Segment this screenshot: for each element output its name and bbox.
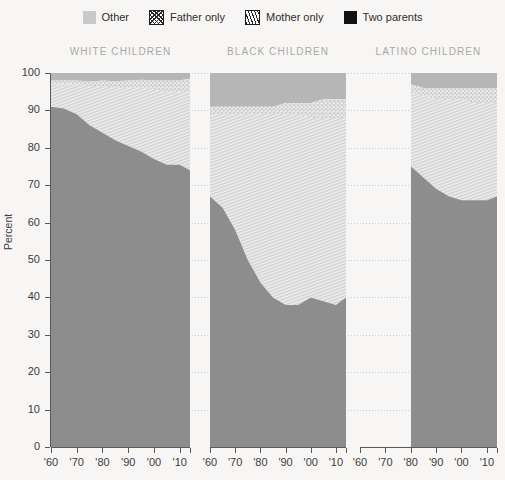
x-tick-mark bbox=[210, 448, 211, 453]
x-tick-label: '80 bbox=[399, 456, 423, 468]
x-tick-label: '90 bbox=[424, 456, 448, 468]
x-tick-mark bbox=[286, 448, 287, 453]
y-tick-label: 30 bbox=[14, 328, 40, 340]
x-tick-mark bbox=[487, 448, 488, 453]
x-tick-mark bbox=[497, 448, 498, 453]
chart-area: Percent 0102030405060708090100 '60'70'80… bbox=[0, 34, 505, 480]
y-tick-mark bbox=[45, 335, 50, 336]
x-tick-mark bbox=[180, 448, 181, 453]
y-tick-label: 40 bbox=[14, 290, 40, 302]
x-tick-label: '70 bbox=[65, 456, 89, 468]
x-tick-mark bbox=[235, 448, 236, 453]
x-tick-mark bbox=[346, 448, 347, 453]
x-tick-label: '70 bbox=[223, 456, 247, 468]
x-tick-label: '00 bbox=[449, 456, 473, 468]
x-tick-mark bbox=[260, 448, 261, 453]
y-tick-mark bbox=[45, 110, 50, 111]
y-tick-label: 90 bbox=[14, 103, 40, 115]
legend-label-mother-only: Mother only bbox=[266, 11, 323, 23]
y-tick-label: 0 bbox=[14, 440, 40, 452]
y-tick-label: 20 bbox=[14, 365, 40, 377]
legend-item-other: Other bbox=[83, 11, 130, 24]
panel-plot-black-children bbox=[210, 73, 346, 447]
x-tick-label: '60 bbox=[348, 456, 372, 468]
solid-black-swatch-icon bbox=[344, 11, 357, 24]
x-tick-label: '60 bbox=[198, 456, 222, 468]
y-tick-label: 10 bbox=[14, 403, 40, 415]
x-tick-mark bbox=[190, 448, 191, 453]
x-tick-label: '70 bbox=[373, 456, 397, 468]
y-tick-label: 60 bbox=[14, 216, 40, 228]
y-tick-mark bbox=[45, 260, 50, 261]
x-tick-mark bbox=[336, 448, 337, 453]
legend-label-father-only: Father only bbox=[170, 11, 225, 23]
x-tick-mark bbox=[311, 448, 312, 453]
legend-item-father-only: Father only bbox=[149, 10, 225, 25]
x-tick-mark bbox=[411, 448, 412, 453]
panel-title-latino-children: LATINO CHILDREN bbox=[360, 46, 497, 57]
y-tick-mark bbox=[45, 148, 50, 149]
y-tick-mark bbox=[45, 447, 50, 448]
legend-item-mother-only: Mother only bbox=[245, 10, 323, 25]
x-tick-label: '80 bbox=[90, 456, 114, 468]
x-tick-label: '90 bbox=[274, 456, 298, 468]
y-tick-mark bbox=[45, 73, 50, 74]
panel-title-black-children: BLACK CHILDREN bbox=[210, 46, 346, 57]
y-tick-label: 70 bbox=[14, 178, 40, 190]
y-tick-mark bbox=[45, 185, 50, 186]
y-tick-mark bbox=[45, 372, 50, 373]
panel-plot-latino-children bbox=[411, 73, 497, 447]
y-tick-mark bbox=[45, 223, 50, 224]
x-tick-label: '80 bbox=[248, 456, 272, 468]
legend-label-two-parents: Two parents bbox=[363, 11, 423, 23]
y-tick-label: 100 bbox=[14, 66, 40, 78]
y-axis-label: Percent bbox=[2, 214, 14, 250]
x-tick-label: '90 bbox=[116, 456, 140, 468]
solid-gray-swatch-icon bbox=[83, 11, 96, 24]
crosshatch-swatch-icon bbox=[149, 10, 164, 25]
x-tick-mark bbox=[51, 448, 52, 453]
legend-label-other: Other bbox=[102, 11, 130, 23]
panel-title-white-children: WHITE CHILDREN bbox=[51, 46, 190, 57]
legend-item-two-parents: Two parents bbox=[344, 11, 423, 24]
x-tick-mark bbox=[154, 448, 155, 453]
y-tick-mark bbox=[45, 410, 50, 411]
x-tick-mark bbox=[385, 448, 386, 453]
x-tick-label: '00 bbox=[299, 456, 323, 468]
x-tick-label: '10 bbox=[324, 456, 348, 468]
chart-legend: Other Father only Mother only Two parent… bbox=[0, 0, 505, 34]
x-axis-line bbox=[360, 447, 497, 448]
x-tick-mark bbox=[102, 448, 103, 453]
x-axis-line bbox=[51, 447, 190, 448]
diagonal-hatch-swatch-icon bbox=[245, 10, 260, 25]
x-tick-label: '00 bbox=[142, 456, 166, 468]
panel-plot-white-children bbox=[51, 73, 190, 447]
x-tick-mark bbox=[128, 448, 129, 453]
x-tick-label: '10 bbox=[168, 456, 192, 468]
x-axis-line bbox=[210, 447, 346, 448]
x-tick-mark bbox=[360, 448, 361, 453]
x-tick-label: '60 bbox=[39, 456, 63, 468]
x-tick-mark bbox=[461, 448, 462, 453]
y-tick-mark bbox=[45, 297, 50, 298]
y-tick-label: 80 bbox=[14, 141, 40, 153]
y-tick-label: 50 bbox=[14, 253, 40, 265]
x-tick-mark bbox=[77, 448, 78, 453]
x-tick-mark bbox=[436, 448, 437, 453]
x-tick-label: '10 bbox=[475, 456, 499, 468]
